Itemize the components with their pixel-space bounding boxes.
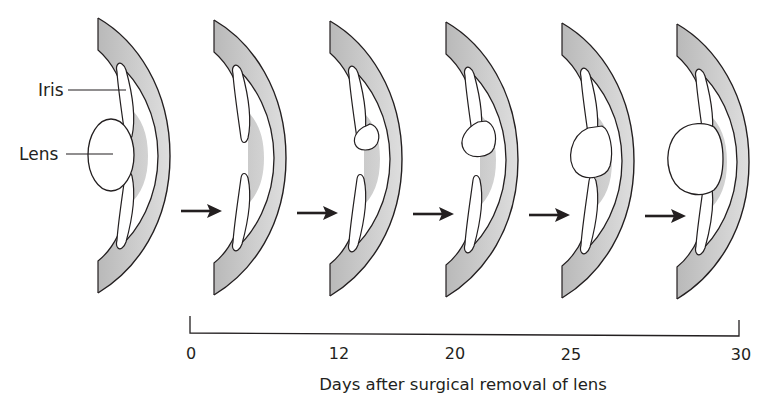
tick-label: 20: [445, 344, 465, 363]
stage-day-20: [446, 22, 518, 297]
stage-day-25: [562, 23, 634, 298]
lens-growing: [571, 126, 612, 178]
label-lens: Lens: [19, 144, 58, 164]
tick-label: 30: [731, 345, 751, 364]
stage-lens-removed: [214, 20, 286, 295]
stage-day-12: [330, 21, 402, 296]
timeline-axis: 0 12 20 25 30 Days after surgical remova…: [186, 316, 751, 394]
arrow-icon: [413, 207, 454, 221]
arrow-icon: [181, 204, 222, 218]
arrow-icon: [297, 206, 338, 220]
arrow-icon: [529, 208, 570, 222]
arrow-icon: [645, 209, 686, 223]
lens-vesicle: [462, 121, 496, 157]
tick-label: 25: [561, 345, 581, 364]
stage-intact: Iris Lens: [19, 18, 170, 293]
timeline-caption: Days after surgical removal of lens: [319, 375, 607, 394]
regenerated-lens: [668, 124, 723, 195]
tick-label: 0: [186, 344, 196, 363]
lens: [88, 119, 134, 191]
stage-day-30: [668, 24, 749, 299]
label-iris: Iris: [38, 80, 64, 100]
lens-regeneration-diagram: Iris Lens 0 12 20 25 30 Days aft: [0, 0, 767, 411]
tick-label: 12: [329, 344, 349, 363]
